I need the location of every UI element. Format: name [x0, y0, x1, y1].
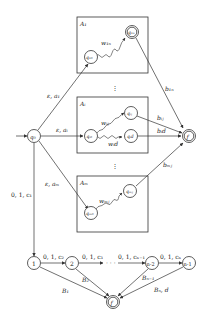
state-f-top: f [183, 130, 196, 143]
svg-text:n-1: n-1 [184, 261, 192, 267]
edge-label-bij: bᵢⱼ [157, 114, 164, 121]
state-qij: qᵢⱼ [125, 107, 138, 120]
state-n-2: n-2 [146, 257, 159, 270]
edge-label-Bn-d: Bₙ, d [153, 286, 169, 293]
state-f-bottom: f [107, 296, 120, 309]
svg-text:qₘ₀: qₘ₀ [86, 211, 94, 216]
svg-text:n-2: n-2 [147, 261, 155, 267]
svg-text:q₁ₙ: q₁ₙ [128, 30, 135, 35]
vertical-ellipsis-2: ⋮ [112, 162, 118, 169]
path-label-wid: wᵢd [108, 140, 118, 147]
edge-label-B1: B₁ [61, 287, 69, 294]
horizontal-ellipsis: · · · [106, 259, 116, 266]
edge-label-1-2: 0, 1, c₂ [43, 253, 65, 260]
edge-label-q0-am: ε, aₘ [45, 180, 60, 187]
svg-text:qₘⱼ: qₘⱼ [126, 189, 134, 194]
state-q1n: q₁ₙ [126, 26, 139, 39]
edge-label-bid: bᵢd [157, 127, 166, 134]
edge-label-q0-a1: ε, a₁ [47, 92, 60, 99]
svg-text:qᵢd: qᵢd [127, 134, 134, 139]
svg-text:qᵢ₀: qᵢ₀ [87, 134, 93, 139]
svg-text:2: 2 [70, 260, 74, 267]
edge-q0-qm0 [39, 141, 88, 209]
box-ai-label: Aᵢ [79, 100, 86, 107]
edge-label-b1n: b₁ₙ [165, 85, 174, 92]
wavy-path-wid [98, 136, 122, 139]
path-label-w1n: w₁ₙ [101, 39, 112, 46]
edge-1-f [40, 267, 107, 298]
svg-text:qᵢⱼ: qᵢⱼ [127, 111, 133, 116]
automaton-diagram: A₁ Aᵢ Aₘ ⋮ ⋮ ε, a₁ ε, aᵢ ε, aₘ 0, 1, c₁ … [0, 0, 208, 316]
state-qmj: qₘⱼ [124, 185, 137, 198]
edge-label-dots-n2: 0, 1, cₙ₋₁ [118, 253, 145, 260]
box-am-label: Aₘ [79, 179, 88, 186]
edge-2-f [76, 269, 109, 296]
edge-label-2-dots: 0, 1, c₃ [82, 253, 104, 260]
edge-label-Bn-1: Bₙ₋₁ [141, 274, 154, 281]
state-qm0: qₘ₀ [85, 207, 98, 220]
svg-text:q₀: q₀ [30, 134, 37, 141]
edge-label-B2: B₂ [81, 276, 89, 283]
box-a1-label: A₁ [79, 20, 87, 27]
edge-label-q0-ai: ε, aᵢ [56, 126, 69, 133]
svg-text:1: 1 [32, 260, 36, 267]
edge-label-n2-n1: 0, 1, cₙ [160, 253, 182, 260]
svg-text:q₁₀: q₁₀ [86, 55, 93, 60]
path-label-wmj: wₘⱼ [99, 197, 110, 204]
state-q0: q₀ [28, 130, 41, 143]
edge-n1-f [120, 267, 183, 298]
state-qi0: qᵢ₀ [85, 130, 98, 143]
state-2: 2 [66, 257, 79, 270]
edge-label-bmj: bₘⱼ [163, 161, 173, 168]
state-qid: qᵢd [125, 130, 138, 143]
state-q10: q₁₀ [85, 51, 98, 64]
vertical-ellipsis-1: ⋮ [112, 84, 118, 91]
state-1: 1 [28, 257, 41, 270]
path-label-wij: wᵢⱼ [101, 119, 109, 126]
edge-qmj-f [136, 143, 183, 186]
state-n-1: n-1 [183, 257, 196, 270]
edge-label-q0-1: 0, 1, c₁ [11, 191, 32, 198]
